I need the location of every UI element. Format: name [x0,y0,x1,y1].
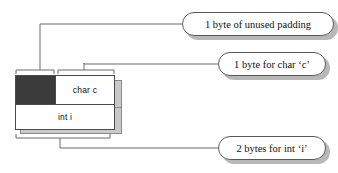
leader-line-int [60,145,218,148]
callout-char: 1 byte for char ‘c’ [218,52,326,76]
leader-line-char [84,63,218,64]
brace-int-icon [16,134,110,145]
callout-padding: 1 byte of unused padding [182,12,334,36]
callout-int: 2 bytes for int ‘i’ [218,136,326,160]
brace-padding-icon [16,63,54,74]
brace-char-icon [58,63,114,74]
leader-line-padding [40,24,182,63]
